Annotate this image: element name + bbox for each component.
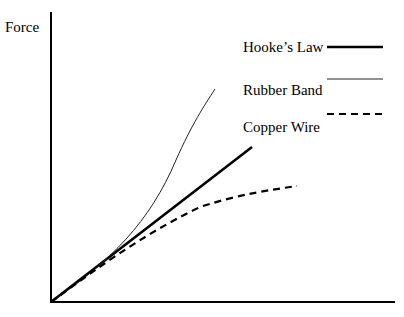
series-copper-wire <box>51 186 297 302</box>
force-extension-chart <box>0 0 404 317</box>
legend-label-rubber-band: Rubber Band <box>243 83 323 98</box>
legend-label-hookes-law: Hooke’s Law <box>243 40 323 55</box>
y-axis-label: Force <box>5 20 39 35</box>
legend-label-copper-wire: Copper Wire <box>243 120 320 135</box>
